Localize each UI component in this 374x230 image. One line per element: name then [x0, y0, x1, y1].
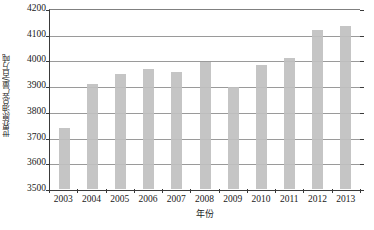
x-axis-title: 年份	[49, 208, 360, 220]
y-tick-mark	[360, 10, 364, 11]
bar-slot	[135, 10, 163, 189]
y-tick-label: 3500	[27, 184, 46, 194]
y-tick-mark	[360, 164, 364, 165]
y-tick-label: 4000	[27, 56, 46, 66]
bar-slot	[50, 10, 78, 189]
bar[interactable]	[171, 72, 182, 190]
bar[interactable]	[340, 26, 351, 189]
y-tick-mark	[360, 87, 364, 88]
bar[interactable]	[143, 69, 154, 189]
x-tick-mark	[360, 189, 361, 193]
y-tick-label: 4200	[27, 4, 46, 14]
y-tick-label: 4100	[27, 30, 46, 40]
y-tick-mark	[360, 113, 364, 114]
x-axis-tick-labels: 2003200420052006200720082009201020112012…	[49, 193, 360, 207]
bar[interactable]	[228, 87, 239, 189]
x-tick-label: 2010	[247, 193, 275, 207]
bar-slot	[191, 10, 219, 189]
bar[interactable]	[59, 128, 70, 189]
bars-layer	[50, 10, 360, 189]
x-tick-label: 2013	[332, 193, 360, 207]
bar-slot	[276, 10, 304, 189]
bar-slot	[78, 10, 106, 189]
x-tick-label: 2011	[275, 193, 303, 207]
x-tick-label: 2003	[49, 193, 77, 207]
bar-slot	[332, 10, 360, 189]
bar-chart-figure: 世界原油总产量/百万吨 3500360037003800390040004100…	[0, 0, 374, 230]
y-tick-mark	[360, 61, 364, 62]
x-tick-label: 2005	[106, 193, 134, 207]
bar[interactable]	[284, 58, 295, 189]
bar[interactable]	[115, 74, 126, 189]
x-tick-label: 2012	[303, 193, 331, 207]
x-tick-label: 2008	[190, 193, 218, 207]
bar[interactable]	[200, 62, 211, 189]
y-axis-tick-labels: 35003600370038003900400041004200	[14, 9, 48, 189]
plot-area	[49, 9, 360, 189]
bar[interactable]	[312, 30, 323, 189]
bar-slot	[219, 10, 247, 189]
bar-slot	[304, 10, 332, 189]
bar-slot	[163, 10, 191, 189]
bar[interactable]	[87, 84, 98, 189]
x-tick-label: 2006	[134, 193, 162, 207]
x-tick-label: 2004	[77, 193, 105, 207]
x-tick-label: 2007	[162, 193, 190, 207]
y-tick-mark	[360, 139, 364, 140]
y-tick-label: 3900	[27, 81, 46, 91]
y-tick-label: 3800	[27, 107, 46, 117]
bar-slot	[106, 10, 134, 189]
x-tick-label: 2009	[219, 193, 247, 207]
bar[interactable]	[256, 65, 267, 189]
y-axis-title: 世界原油总产量/百万吨	[0, 0, 14, 190]
y-tick-label: 3700	[27, 133, 46, 143]
bar-slot	[247, 10, 275, 189]
y-tick-mark	[360, 36, 364, 37]
y-axis-title-text: 世界原油总产量/百万吨	[3, 54, 11, 137]
y-tick-label: 3600	[27, 159, 46, 169]
